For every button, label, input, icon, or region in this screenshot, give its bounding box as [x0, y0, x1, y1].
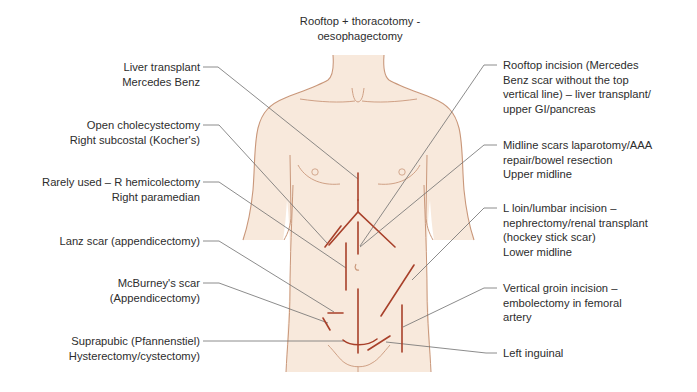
label-line: Right subcostal (Kocher's)	[70, 133, 200, 148]
label-loin-lumbar: L loin/lumbar incision – nephrectomy/ren…	[503, 201, 648, 259]
label-liver-transplant: Liver transplant Mercedes Benz	[122, 60, 200, 89]
label-line: (hockey stick scar)	[503, 230, 648, 245]
label-line: Liver transplant	[122, 60, 200, 75]
label-line: upper GI/pancreas	[503, 102, 651, 117]
label-line: Vertical groin incision –	[503, 281, 622, 296]
label-line: embolectomy in femoral	[503, 296, 622, 311]
label-rooftop-incision: Rooftop incision (Mercedes Benz scar wit…	[503, 58, 651, 116]
label-line: repair/bowel resection	[503, 153, 652, 168]
label-line: McBurney's scar	[110, 276, 200, 291]
title-line-2: oesophagectomy	[290, 29, 430, 44]
label-vertical-groin: Vertical groin incision – embolectomy in…	[503, 281, 622, 325]
label-mcburney-scar: McBurney's scar (Appendicectomy)	[110, 276, 200, 305]
label-line: Lanz scar (appendicectomy)	[59, 234, 200, 249]
label-line: Hysterectomy/cystectomy)	[69, 349, 200, 364]
label-line: Suprapubic (Pfannenstiel)	[69, 334, 200, 349]
title-label: Rooftop + thoracotomy - oesophagectomy	[290, 14, 430, 43]
title-line-1: Rooftop + thoracotomy -	[290, 14, 430, 29]
label-line: Lower midline	[503, 245, 648, 260]
label-line: nephrectomy/renal transplant	[503, 216, 648, 231]
label-line: L loin/lumbar incision –	[503, 201, 648, 216]
label-open-cholecystectomy: Open cholecystectomy Right subcostal (Ko…	[70, 118, 200, 147]
label-left-inguinal: Left inguinal	[503, 346, 563, 361]
label-line: artery	[503, 310, 622, 325]
label-line: Open cholecystectomy	[70, 118, 200, 133]
label-line: Midline scars laparotomy/AAA	[503, 138, 652, 153]
label-line: Mercedes Benz	[122, 75, 200, 90]
label-line: Left inguinal	[503, 346, 563, 361]
label-line: Benz scar without the top	[503, 73, 651, 88]
label-line: Right paramedian	[42, 190, 200, 205]
label-line: (Appendicectomy)	[110, 291, 200, 306]
label-midline-scars: Midline scars laparotomy/AAA repair/bowe…	[503, 138, 652, 182]
surgical-scars-diagram: Rooftop + thoracotomy - oesophagectomy L…	[0, 0, 697, 392]
label-line: Upper midline	[503, 167, 652, 182]
label-lanz-scar: Lanz scar (appendicectomy)	[59, 234, 200, 249]
label-line: vertical line) – liver transplant/	[503, 87, 651, 102]
label-line: Rarely used – R hemicolectomy	[42, 175, 200, 190]
label-suprapubic: Suprapubic (Pfannenstiel) Hysterectomy/c…	[69, 334, 200, 363]
label-line: Rooftop incision (Mercedes	[503, 58, 651, 73]
label-right-paramedian: Rarely used – R hemicolectomy Right para…	[42, 175, 200, 204]
